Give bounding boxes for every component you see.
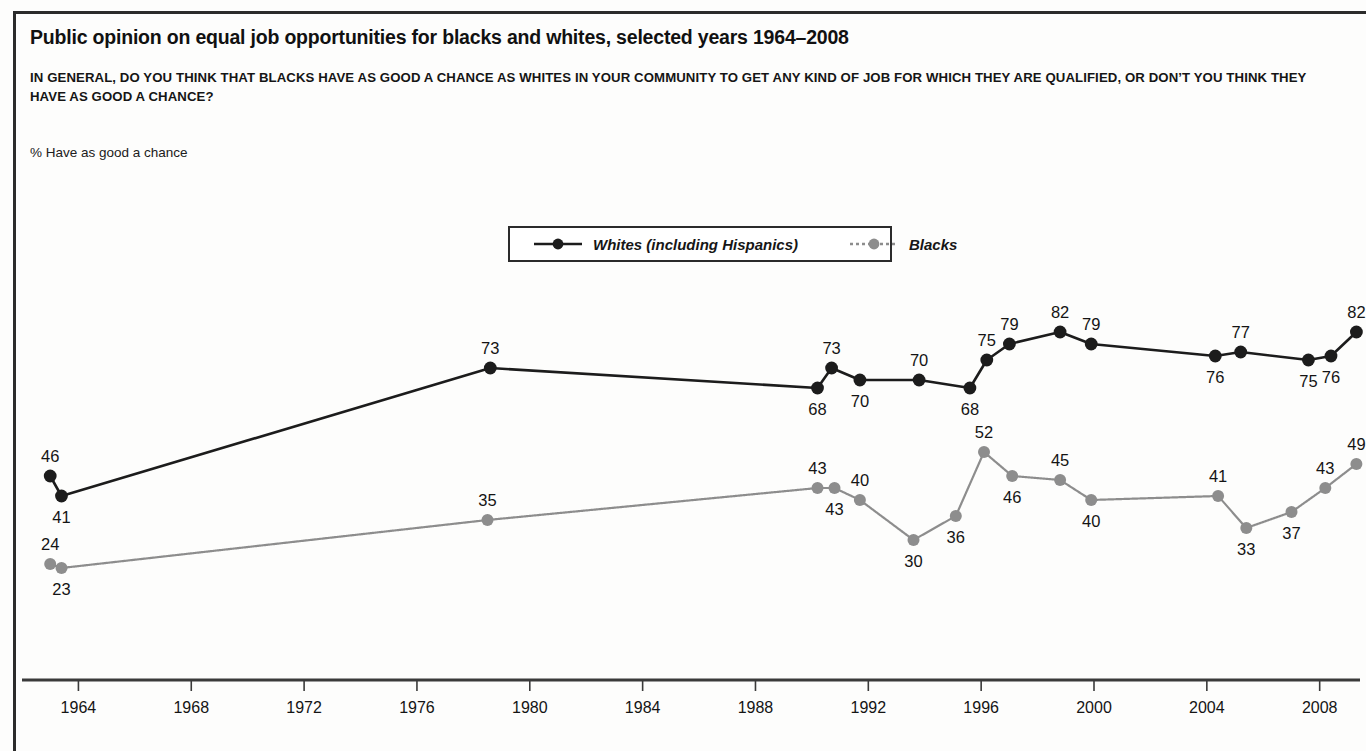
legend-swatch-blacks <box>848 237 900 251</box>
data-point-label: 75 <box>1299 372 1317 390</box>
data-point-label: 46 <box>1003 488 1021 506</box>
data-point[interactable] <box>482 514 494 526</box>
data-point[interactable] <box>484 362 497 375</box>
data-point-label: 41 <box>52 508 70 526</box>
data-point-label: 23 <box>52 580 70 598</box>
x-axis-tick-label: 1964 <box>61 699 97 716</box>
data-point[interactable] <box>1302 354 1315 367</box>
x-axis-tick-label: 2008 <box>1302 699 1338 716</box>
data-point[interactable] <box>56 562 68 574</box>
x-axis-tick-label: 2000 <box>1076 699 1112 716</box>
data-point[interactable] <box>854 374 867 387</box>
data-point[interactable] <box>1240 522 1252 534</box>
data-point-label: 76 <box>1206 368 1224 386</box>
data-point[interactable] <box>950 510 962 522</box>
x-axis: 1964196819721976198019841988199219962000… <box>22 680 1360 716</box>
data-point[interactable] <box>1006 470 1018 482</box>
data-point-label: 77 <box>1232 323 1250 341</box>
series-layer: 4641736873707068757982797677757682242335… <box>41 303 1366 598</box>
data-point-label: 79 <box>1000 315 1018 333</box>
data-point-label: 70 <box>910 351 928 369</box>
data-point-label: 24 <box>41 535 59 553</box>
data-point[interactable] <box>1319 482 1331 494</box>
x-axis-tick-label: 1984 <box>625 699 661 716</box>
data-point[interactable] <box>908 534 920 546</box>
data-point[interactable] <box>1085 494 1097 506</box>
x-axis-tick-label: 2004 <box>1189 699 1225 716</box>
legend-item-whites[interactable]: Whites (including Hispanics) <box>532 236 798 253</box>
data-point[interactable] <box>1054 474 1066 486</box>
data-point-label: 45 <box>1051 451 1069 469</box>
data-point[interactable] <box>1209 350 1222 363</box>
data-point-label: 73 <box>822 339 840 357</box>
data-point-label: 76 <box>1322 368 1340 386</box>
data-point-label: 79 <box>1082 315 1100 333</box>
data-point[interactable] <box>812 482 824 494</box>
data-point-label: 43 <box>808 459 826 477</box>
data-point-label: 82 <box>1347 303 1365 321</box>
data-point[interactable] <box>811 382 824 395</box>
data-point[interactable] <box>1003 338 1016 351</box>
x-axis-tick-label: 1988 <box>738 699 774 716</box>
data-point-label: 52 <box>975 423 993 441</box>
data-point-label: 49 <box>1347 435 1365 453</box>
data-point[interactable] <box>1085 338 1098 351</box>
data-point[interactable] <box>978 446 990 458</box>
data-point[interactable] <box>1350 458 1362 470</box>
data-point[interactable] <box>854 494 866 506</box>
legend: Whites (including Hispanics) Blacks <box>508 226 892 262</box>
data-point-label: 82 <box>1051 303 1069 321</box>
legend-label-blacks: Blacks <box>909 236 957 253</box>
series-blacks: 2423354343403036524645404133374349 <box>41 423 1366 598</box>
x-axis-tick-label: 1972 <box>286 699 322 716</box>
data-point-label: 46 <box>41 447 59 465</box>
x-axis-tick-label: 1996 <box>963 699 999 716</box>
data-point-label: 43 <box>1316 459 1334 477</box>
data-point-label: 75 <box>978 331 996 349</box>
legend-item-blacks[interactable]: Blacks <box>848 236 957 253</box>
data-point-label: 35 <box>478 491 496 509</box>
data-point-label: 33 <box>1237 540 1255 558</box>
series-line <box>50 332 1356 496</box>
data-point-label: 41 <box>1209 467 1227 485</box>
data-point[interactable] <box>964 382 977 395</box>
data-point[interactable] <box>1350 326 1363 339</box>
series-whites: 4641736873707068757982797677757682 <box>41 303 1366 526</box>
data-point[interactable] <box>44 558 56 570</box>
data-point-label: 68 <box>961 400 979 418</box>
data-point-label: 43 <box>825 500 843 518</box>
data-point-label: 68 <box>808 400 826 418</box>
figure-frame: Public opinion on equal job opportunitie… <box>0 0 1366 751</box>
data-point[interactable] <box>825 362 838 375</box>
x-axis-tick-label: 1980 <box>512 699 548 716</box>
data-point[interactable] <box>1286 506 1298 518</box>
data-point[interactable] <box>980 354 993 367</box>
data-point[interactable] <box>829 482 841 494</box>
data-point-label: 37 <box>1282 524 1300 542</box>
x-axis-tick-label: 1992 <box>851 699 887 716</box>
data-point-label: 40 <box>851 471 869 489</box>
data-point[interactable] <box>44 470 57 483</box>
data-point-label: 73 <box>481 339 499 357</box>
data-point[interactable] <box>913 374 926 387</box>
data-point[interactable] <box>1234 346 1247 359</box>
data-point[interactable] <box>1212 490 1224 502</box>
data-point-label: 30 <box>904 552 922 570</box>
data-point[interactable] <box>1054 326 1067 339</box>
legend-swatch-whites <box>532 237 584 251</box>
data-point[interactable] <box>1325 350 1338 363</box>
x-axis-tick-label: 1976 <box>399 699 435 716</box>
line-chart: 4641736873707068757982797677757682242335… <box>0 0 1366 751</box>
series-line <box>50 452 1356 568</box>
legend-label-whites: Whites (including Hispanics) <box>593 236 798 253</box>
x-axis-tick-label: 1968 <box>173 699 209 716</box>
data-point-label: 70 <box>851 392 869 410</box>
data-point-label: 36 <box>947 528 965 546</box>
data-point[interactable] <box>55 490 68 503</box>
data-point-label: 40 <box>1082 512 1100 530</box>
